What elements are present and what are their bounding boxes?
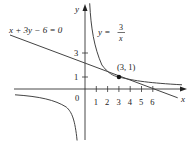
x-tick-label-2: 2 — [105, 97, 109, 107]
y-tick-label-1: 1 — [74, 72, 78, 82]
y-axis-arrow-icon — [83, 4, 88, 11]
line-equation-label: x + 3y − 6 = 0 — [8, 25, 63, 35]
hyperbola-negative-branch — [15, 95, 77, 141]
curve-equation-denominator: x — [118, 34, 123, 43]
y-tick-label-3: 3 — [74, 48, 78, 58]
x-tick-label-3: 3 — [116, 97, 120, 107]
curve-equation-lhs: y = — [97, 27, 110, 37]
hyperbola-positive-branch — [90, 3, 182, 85]
x-tick-label-6: 6 — [150, 97, 154, 107]
chart: y x 0 1 2 3 4 5 6 1 3 x + 3y − 6 = 0 y =… — [0, 0, 188, 152]
origin-label: 0 — [75, 93, 79, 103]
x-tick-label-4: 4 — [128, 97, 133, 107]
x-axis-arrow-icon — [180, 87, 187, 92]
point-label: (3, 1) — [117, 62, 136, 72]
line-x-plus-3y-minus-6 — [10, 35, 178, 98]
intersection-point — [117, 75, 121, 79]
x-tick-label-5: 5 — [139, 97, 143, 107]
y-axis-label: y — [74, 4, 79, 14]
x-axis-label: x — [180, 94, 185, 104]
curve-equation-numerator: 3 — [119, 23, 123, 32]
x-tick-label-1: 1 — [94, 97, 98, 107]
